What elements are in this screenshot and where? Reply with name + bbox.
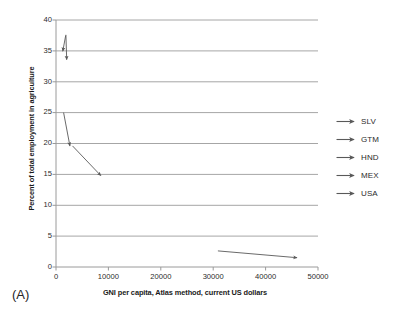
- legend-label: HND: [361, 153, 379, 162]
- legend-label: GTM: [361, 135, 379, 144]
- legend-item-hnd[interactable]: HND: [336, 148, 404, 166]
- legend-item-usa[interactable]: USA: [336, 184, 404, 202]
- legend-item-gtm[interactable]: GTM: [336, 130, 404, 148]
- arrow-right-icon: [336, 153, 358, 162]
- x-tick-label: 20000: [138, 272, 184, 281]
- panel-label: (A): [12, 287, 29, 302]
- x-tick-label: 10000: [85, 272, 131, 281]
- chart-figure: Percent of total employment in agricultu…: [0, 0, 407, 320]
- chart-legend: SLV GTM HND MEX: [336, 112, 404, 202]
- x-tick-label: 30000: [190, 272, 236, 281]
- x-tick-label: 50000: [295, 272, 341, 281]
- x-tick-label: 40000: [243, 272, 289, 281]
- legend-label: SLV: [361, 117, 376, 126]
- arrow-right-icon: [336, 171, 358, 180]
- arrow-right-icon: [336, 117, 358, 126]
- x-axis-title: GNI per capita, Atlas method, current US…: [40, 288, 330, 297]
- legend-label: MEX: [361, 171, 379, 180]
- legend-item-slv[interactable]: SLV: [336, 112, 404, 130]
- legend-item-mex[interactable]: MEX: [336, 166, 404, 184]
- x-tick-label: 0: [33, 272, 79, 281]
- arrow-right-icon: [336, 189, 358, 198]
- legend-label: USA: [361, 189, 378, 198]
- arrow-right-icon: [336, 135, 358, 144]
